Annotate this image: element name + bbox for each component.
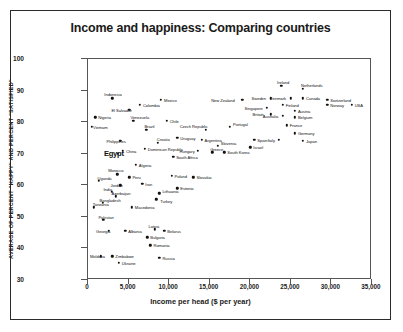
data-point-label: Iran xyxy=(145,183,152,187)
data-point xyxy=(241,99,243,101)
data-point xyxy=(265,107,267,109)
data-point-label: Pakistan xyxy=(98,216,113,220)
scatter-plot-area: IndonesiaNigeriaVietnamColombiaEl Salvad… xyxy=(87,58,371,279)
x-tick-mark xyxy=(209,279,210,284)
data-point xyxy=(204,129,206,131)
data-point-label: Jordan xyxy=(110,184,122,188)
x-tick-mark xyxy=(290,279,291,284)
data-point xyxy=(302,140,304,142)
x-tick-label: 25,000 xyxy=(280,283,299,290)
y-axis-label-text: AVERAGE OF PERCENT "HAPPY" AND PERCENT "… xyxy=(8,79,14,259)
data-point xyxy=(94,116,96,118)
data-point-label: Ireland xyxy=(277,81,289,85)
data-point-label: Germany xyxy=(298,132,315,136)
data-point-label: Japan xyxy=(306,140,317,144)
data-point xyxy=(294,116,296,118)
data-point-label: Moldova xyxy=(90,255,105,259)
data-point-label: South Africa xyxy=(176,156,197,160)
data-point-label: Ukraine xyxy=(122,262,136,266)
data-point xyxy=(118,261,120,263)
data-point-label: Lithuania xyxy=(162,190,178,194)
data-point xyxy=(158,192,160,194)
data-point xyxy=(163,230,165,232)
y-tick-label: 60 xyxy=(0,181,24,188)
data-point xyxy=(170,175,172,177)
data-point-label: Slovenia xyxy=(221,142,236,146)
data-point xyxy=(131,206,133,208)
data-point-label: Romania xyxy=(153,244,169,248)
data-point-label: Brazil xyxy=(144,125,154,129)
data-point-label: Bulgaria xyxy=(150,236,165,240)
data-point xyxy=(155,198,157,200)
x-tick-mark xyxy=(87,279,88,284)
data-point-label: Venezuela xyxy=(130,116,149,120)
data-point xyxy=(135,164,137,166)
data-point-label: Belgium xyxy=(298,116,312,120)
data-point xyxy=(144,148,146,150)
data-point-label: Singapore xyxy=(245,107,263,111)
x-tick-label: 35,000 xyxy=(361,283,380,290)
data-point-label: Algeria xyxy=(139,164,151,168)
data-point xyxy=(200,138,202,140)
data-point xyxy=(160,99,162,101)
data-point-label: Netherlands xyxy=(301,84,323,88)
data-point-label: Norway xyxy=(330,104,344,108)
data-point xyxy=(166,119,168,121)
x-tick-mark xyxy=(371,279,372,284)
data-point-label: Peru xyxy=(132,176,140,180)
data-point xyxy=(223,151,225,153)
data-point-label: Slovakia xyxy=(196,176,211,180)
data-point-label: Russia xyxy=(162,257,174,261)
data-point-label: Dominican Republic xyxy=(148,148,184,152)
y-tick-label: 30 xyxy=(0,276,24,283)
data-point xyxy=(282,104,284,106)
data-point xyxy=(229,126,231,128)
data-point-label: Morocco xyxy=(108,169,123,173)
data-point xyxy=(294,110,296,112)
data-point xyxy=(149,244,151,246)
data-point xyxy=(157,141,159,143)
data-point xyxy=(326,99,328,101)
data-point xyxy=(141,183,143,185)
data-point xyxy=(290,97,292,99)
data-point-label: Chile xyxy=(170,120,179,124)
data-point xyxy=(280,85,282,87)
data-point xyxy=(302,88,304,90)
x-tick-label: 30,000 xyxy=(321,283,340,290)
data-point-label: Uruguay xyxy=(180,137,195,141)
data-point-label: Australia xyxy=(263,115,278,119)
page-title: Income and happiness: Comparing countrie… xyxy=(11,21,390,35)
y-tick-label: 50 xyxy=(0,212,24,219)
y-tick-label: 70 xyxy=(0,149,24,156)
data-point-label: Estonia xyxy=(180,187,193,191)
data-point xyxy=(277,138,279,140)
x-tick-mark xyxy=(330,279,331,284)
data-point-label: Croatia xyxy=(157,138,170,142)
x-tick-label: 5,000 xyxy=(120,283,136,290)
data-point-label: Portugal xyxy=(233,123,248,127)
data-point-label: Poland xyxy=(175,175,187,179)
data-point xyxy=(111,97,113,99)
data-point-label: Indonesia xyxy=(104,93,121,97)
data-point-label: Nigeria xyxy=(98,116,111,120)
data-point-label: Czech Republic xyxy=(180,125,208,129)
y-tick-label: 80 xyxy=(0,118,24,125)
data-point-label: Tanzania xyxy=(93,203,109,207)
data-point-label: Finland xyxy=(286,104,299,108)
data-point-label: Sweden xyxy=(252,97,267,101)
data-point-label: Georgia xyxy=(96,230,110,234)
data-point-label: Argentina xyxy=(205,139,222,143)
data-point xyxy=(196,149,198,151)
data-point-label: Vietnam xyxy=(93,126,108,130)
data-point xyxy=(192,176,194,178)
data-point-label: Macedonia xyxy=(135,206,155,210)
data-point-label: USA xyxy=(355,104,363,108)
y-tick-label: 40 xyxy=(0,244,24,251)
data-point-label: Turkey xyxy=(160,200,172,204)
data-point-label: South Korea xyxy=(227,151,249,155)
data-point-label: El Salvador xyxy=(111,109,131,113)
x-tick-mark xyxy=(128,279,129,284)
data-point-label: Hungary xyxy=(180,150,195,154)
data-point-label: Spain xyxy=(257,139,267,143)
data-point xyxy=(282,115,284,117)
